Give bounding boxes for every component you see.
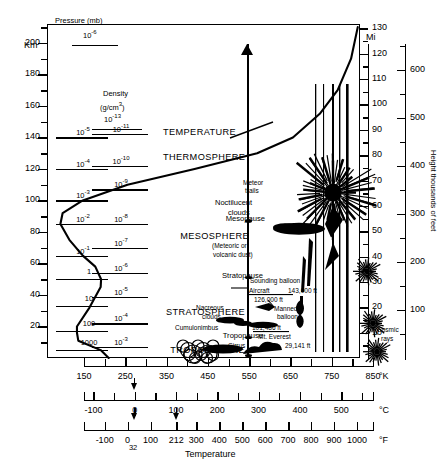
density-value-2: 10-9 bbox=[96, 178, 146, 188]
celsius-tick bbox=[259, 392, 260, 401]
mi-tick-label: 60 bbox=[372, 201, 382, 210]
annotation-aircraft-alt: 126,000 ft bbox=[254, 297, 283, 304]
fahrenheit-tick bbox=[151, 422, 152, 431]
kelvin-tick-minor bbox=[352, 359, 353, 366]
celsius-tick bbox=[217, 392, 218, 401]
kelvin-tick-minor bbox=[270, 359, 271, 366]
annotation-meteor-1: Meteor bbox=[243, 180, 263, 187]
annotation-sounding-alt: 143,000 ft bbox=[288, 288, 317, 295]
density-rule-6 bbox=[92, 297, 148, 298]
density-value-1: 10-10 bbox=[96, 155, 146, 165]
feet-tick-minor bbox=[400, 94, 405, 95]
celsius-axis: -1000100200300400500°C bbox=[0, 392, 442, 422]
mi-tick-label: 40 bbox=[372, 252, 382, 261]
density-rule-7 bbox=[92, 323, 148, 324]
pressure-rule-5 bbox=[56, 279, 108, 280]
annotation-noctilucent-2: clouds bbox=[228, 209, 250, 217]
density-value-0: 10-11 bbox=[96, 123, 146, 133]
kelvin-tick-minor bbox=[187, 359, 188, 366]
celsius-tick-label: 400 bbox=[278, 406, 322, 415]
kelvin-tick-minor bbox=[146, 359, 147, 366]
feet-tick-label: 400 bbox=[410, 161, 425, 170]
annotation-cumulonimbus: Cumulonimbus bbox=[175, 325, 218, 332]
pressure-rule-7 bbox=[56, 331, 108, 332]
celsius-tick-minor bbox=[321, 393, 322, 400]
fahrenheit-cap-right bbox=[373, 422, 374, 431]
kelvin-unit: °K bbox=[379, 372, 389, 381]
km-tick-label: 120 bbox=[14, 164, 40, 173]
kelvin-tick bbox=[332, 358, 333, 367]
annotation-aircraft: Aircraft bbox=[249, 288, 270, 295]
density-value-3: 10-8 bbox=[96, 213, 146, 223]
feet-tick-label: 500 bbox=[410, 113, 425, 122]
mi-tick-label: 100 bbox=[372, 99, 387, 108]
feet-tick bbox=[397, 118, 405, 119]
mi-tick-label: 130 bbox=[372, 23, 387, 32]
mi-tick bbox=[360, 79, 368, 80]
mi-tick bbox=[360, 282, 368, 283]
celsius-tick bbox=[176, 392, 177, 401]
kelvin-rail bbox=[84, 366, 373, 367]
density-value-4: 10-7 bbox=[96, 237, 146, 247]
celsius-tick bbox=[93, 392, 94, 401]
fahrenheit-tick bbox=[219, 422, 220, 431]
fahrenheit-tick bbox=[128, 422, 129, 431]
fahrenheit-tick bbox=[357, 422, 358, 431]
mi-tick bbox=[360, 28, 368, 29]
pressure-rule-1 bbox=[56, 169, 108, 170]
kelvin-axis: 150250350450550650750850°K bbox=[0, 358, 442, 392]
density-rule-5 bbox=[92, 273, 148, 274]
mi-tick-minor bbox=[363, 295, 368, 296]
celsius-tick-minor bbox=[279, 393, 280, 400]
feet-tick bbox=[397, 70, 405, 71]
fahrenheit-tick bbox=[242, 422, 243, 431]
mi-tick-label: 20 bbox=[372, 302, 382, 311]
feet-tick-minor bbox=[400, 142, 405, 143]
mi-tick bbox=[360, 104, 368, 105]
kelvin-tick-label: 250 bbox=[103, 372, 147, 381]
km-tick-label: 20 bbox=[14, 321, 40, 330]
kelvin-tick bbox=[84, 358, 85, 367]
mi-tick bbox=[360, 257, 368, 258]
celsius-cap-right bbox=[373, 392, 374, 401]
km-tick-label: 140 bbox=[14, 132, 40, 141]
celsius-tick-minor bbox=[362, 393, 363, 400]
kelvin-tick-label: 550 bbox=[227, 372, 271, 381]
feet-tick bbox=[397, 262, 405, 263]
feet-tick-label: 600 bbox=[410, 65, 425, 74]
pause-marker bbox=[245, 336, 252, 339]
mi-tick-minor bbox=[363, 320, 368, 321]
celsius-tick bbox=[300, 392, 301, 401]
kelvin-tick-label: 750 bbox=[310, 372, 354, 381]
density-value-6: 10-5 bbox=[96, 286, 146, 296]
feet-axis-rail bbox=[405, 44, 406, 360]
density-value-7: 10-4 bbox=[96, 312, 146, 322]
mi-tick-minor bbox=[363, 142, 368, 143]
density-rule-1 bbox=[92, 166, 148, 167]
km-tick-label: 40 bbox=[14, 290, 40, 299]
mi-tick-minor bbox=[363, 219, 368, 220]
mi-tick-label: 70 bbox=[372, 176, 382, 185]
fahrenheit-arrow-stem bbox=[134, 408, 135, 416]
fahrenheit-tick bbox=[105, 422, 106, 431]
layer-label-thermosphere: THERMOSPHERE bbox=[163, 153, 243, 162]
km-tick-label: 80 bbox=[14, 227, 40, 236]
kelvin-tick bbox=[167, 358, 168, 367]
feet-tick-label: 100 bbox=[410, 305, 425, 314]
density-rule-0 bbox=[92, 134, 148, 135]
fahrenheit-32-marker: 32 bbox=[129, 444, 137, 452]
mi-tick bbox=[360, 307, 368, 308]
mi-tick-minor bbox=[363, 168, 368, 169]
fahrenheit-tick-label: 1000 bbox=[335, 436, 379, 445]
celsius-tick-label: -100 bbox=[71, 406, 115, 415]
kelvin-tick-label: 150 bbox=[62, 372, 106, 381]
annotation-sounding-balloon: Sounding balloon bbox=[250, 278, 300, 285]
celsius-tick bbox=[135, 392, 136, 401]
density-rule-8 bbox=[92, 347, 148, 348]
celsius-tick-label: 200 bbox=[195, 406, 239, 415]
mi-tick-minor bbox=[363, 117, 368, 118]
annotation-cosmic-2: rays bbox=[381, 336, 393, 343]
celsius-freezing-stem bbox=[134, 378, 135, 386]
pause-marker bbox=[245, 219, 252, 222]
annotation-everest-alt: 29,141 ft bbox=[285, 343, 310, 350]
